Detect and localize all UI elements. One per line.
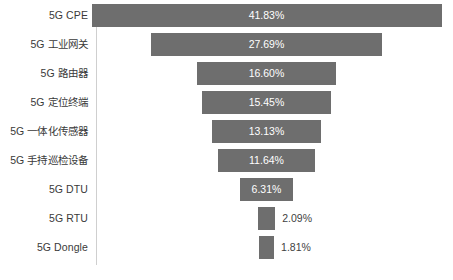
- bar-row: 5G 路由器16.60%: [0, 62, 453, 85]
- category-label: 5G Dongle: [0, 236, 88, 259]
- bar-row: 5G 工业网关27.69%: [0, 33, 453, 56]
- bar-row: 5G CPE41.83%: [0, 4, 453, 27]
- bar-value-label: 13.13%: [212, 120, 322, 143]
- bar-value-label: 1.81%: [281, 236, 311, 259]
- category-label: 5G RTU: [0, 207, 88, 230]
- bar-value-label: 6.31%: [240, 178, 293, 201]
- category-label: 5G CPE: [0, 4, 88, 27]
- bar-value-label: 11.64%: [218, 149, 315, 172]
- bar-row: 5G 定位终端15.45%: [0, 91, 453, 114]
- category-label: 5G 路由器: [0, 62, 88, 85]
- bar-chart: 5G CPE41.83%5G 工业网关27.69%5G 路由器16.60%5G …: [0, 0, 453, 280]
- category-label: 5G 手持巡检设备: [0, 149, 88, 172]
- bar: [258, 207, 275, 230]
- bar-row: 5G RTU2.09%: [0, 207, 453, 230]
- bar-value-label: 15.45%: [202, 91, 331, 114]
- category-label: 5G 工业网关: [0, 33, 88, 56]
- category-label: 5G 一体化传感器: [0, 120, 88, 143]
- bar-row: 5G 手持巡检设备11.64%: [0, 149, 453, 172]
- bar-row: 5G DTU6.31%: [0, 178, 453, 201]
- bar-value-label: 27.69%: [151, 33, 383, 56]
- bar-value-label: 41.83%: [92, 4, 442, 27]
- plot-area: 5G CPE41.83%5G 工业网关27.69%5G 路由器16.60%5G …: [0, 0, 453, 280]
- bar-row: 5G 一体化传感器13.13%: [0, 120, 453, 143]
- category-label: 5G 定位终端: [0, 91, 88, 114]
- category-label: 5G DTU: [0, 178, 88, 201]
- bar-value-label: 2.09%: [282, 207, 312, 230]
- bar-row: 5G Dongle1.81%: [0, 236, 453, 259]
- bar: [259, 236, 274, 259]
- bar-value-label: 16.60%: [197, 62, 336, 85]
